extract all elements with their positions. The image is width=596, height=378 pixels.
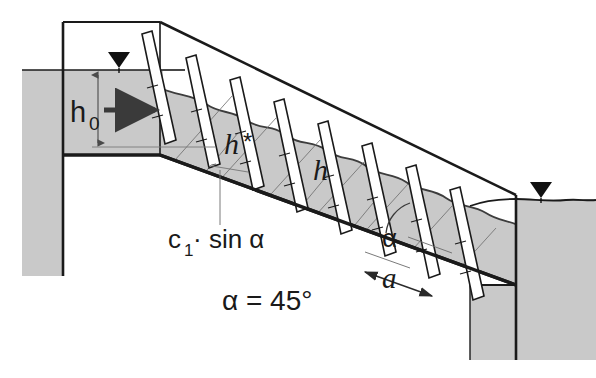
ground-and-water-fills — [22, 70, 596, 360]
label-h: h — [313, 153, 328, 186]
chute-diagram-svg: h 0 c 1 · sin α h * h a α α = 45° — [0, 0, 596, 378]
label-c1-rest: · sin α — [193, 224, 264, 254]
label-a: a — [382, 262, 397, 294]
label-alpha-arc: α — [382, 223, 397, 253]
label-h-star-mark: * — [243, 128, 252, 155]
label-h0-main: h — [70, 96, 86, 128]
label-alpha-equation: α = 45° — [222, 285, 312, 316]
diagram-canvas: h 0 c 1 · sin α h * h a α α = 45° — [0, 0, 596, 378]
downstream-right-ground — [516, 199, 596, 360]
label-h0-sub: 0 — [89, 113, 100, 134]
left-pier-ground — [22, 155, 63, 276]
label-h-star-main: h — [224, 127, 239, 160]
label-c1-main: c — [168, 224, 181, 254]
